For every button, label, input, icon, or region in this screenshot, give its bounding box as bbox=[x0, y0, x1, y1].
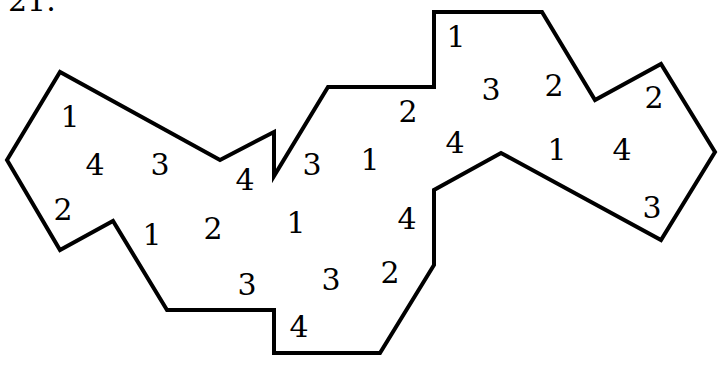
cell-number: 2 bbox=[644, 83, 663, 113]
cell-number: 4 bbox=[85, 150, 104, 180]
cell-number: 1 bbox=[286, 208, 305, 238]
cell-number: 2 bbox=[53, 195, 72, 225]
cell-number: 3 bbox=[642, 193, 661, 223]
polygon-figure bbox=[0, 0, 724, 365]
cell-number: 4 bbox=[445, 128, 464, 158]
cell-number: 3 bbox=[481, 75, 500, 105]
cell-number: 4 bbox=[612, 135, 631, 165]
polygon-outline bbox=[7, 12, 715, 353]
cell-number: 3 bbox=[150, 150, 169, 180]
cell-number: 1 bbox=[360, 145, 379, 175]
cell-number: 1 bbox=[142, 220, 161, 250]
cell-number: 2 bbox=[398, 97, 417, 127]
cell-number: 1 bbox=[547, 135, 566, 165]
cell-number: 4 bbox=[289, 312, 308, 342]
cell-number: 4 bbox=[235, 165, 254, 195]
cell-number: 3 bbox=[321, 265, 340, 295]
cell-number: 2 bbox=[544, 71, 563, 101]
cell-number: 3 bbox=[237, 270, 256, 300]
cell-number: 1 bbox=[60, 102, 79, 132]
cell-number: 3 bbox=[302, 150, 321, 180]
cell-number: 4 bbox=[397, 204, 416, 234]
cell-number: 1 bbox=[446, 22, 465, 52]
cell-number: 2 bbox=[380, 258, 399, 288]
cell-number: 2 bbox=[203, 214, 222, 244]
